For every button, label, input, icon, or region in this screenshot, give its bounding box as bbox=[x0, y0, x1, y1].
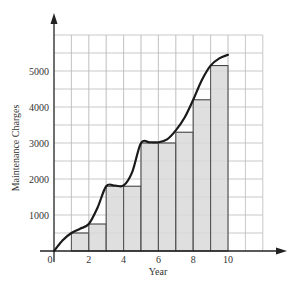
x-tick-label: 2 bbox=[86, 254, 91, 265]
y-tick-labels: 10002000300040005000 bbox=[29, 66, 49, 221]
y-tick-label: 5000 bbox=[29, 66, 49, 77]
bar bbox=[106, 186, 123, 251]
bar bbox=[176, 132, 193, 251]
y-tick-label: 1000 bbox=[29, 210, 49, 221]
x-tick-labels: 0246810 bbox=[48, 254, 234, 265]
x-tick-label: 6 bbox=[156, 254, 161, 265]
x-axis-arrow-icon bbox=[276, 248, 287, 255]
x-axis-title: Year bbox=[149, 266, 168, 277]
y-axis-title: Maintenance Charges bbox=[10, 105, 21, 192]
x-tick-label: 10 bbox=[223, 254, 233, 265]
y-tick-label: 3000 bbox=[29, 138, 49, 149]
x-tick-label: 0 bbox=[48, 254, 53, 265]
bar bbox=[89, 224, 106, 251]
bar bbox=[158, 143, 175, 251]
bar bbox=[124, 186, 141, 251]
y-tick-label: 2000 bbox=[29, 174, 49, 185]
x-tick-label: 4 bbox=[121, 254, 126, 265]
bar bbox=[193, 100, 210, 251]
y-tick-label: 4000 bbox=[29, 102, 49, 113]
maintenance-charges-chart: 0246810 10002000300040005000 Year Mainte… bbox=[0, 0, 299, 290]
bar bbox=[211, 66, 228, 251]
bar bbox=[71, 233, 88, 251]
bar bbox=[141, 143, 158, 251]
y-axis-arrow-icon bbox=[51, 13, 58, 24]
x-tick-label: 8 bbox=[191, 254, 196, 265]
